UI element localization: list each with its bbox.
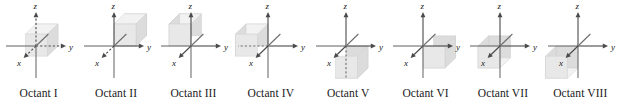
octant-caption-6: Octant VI bbox=[402, 86, 448, 100]
octant-panel-4: yzxOctant IV bbox=[232, 0, 309, 110]
axis-label-x: x bbox=[481, 58, 486, 68]
octant-diagram-6: yzx bbox=[387, 0, 464, 86]
axis-label-x: x bbox=[16, 58, 21, 68]
axis-label-z: z bbox=[33, 1, 38, 11]
axis-label-y: y bbox=[223, 42, 228, 52]
axis-label-z: z bbox=[574, 1, 579, 11]
axis-label-y: y bbox=[68, 42, 73, 52]
axis-label-z: z bbox=[420, 1, 425, 11]
octant-caption-3: Octant III bbox=[170, 86, 216, 100]
axis-label-y: y bbox=[532, 42, 537, 52]
octant-panel-7: yzxOctant VII bbox=[464, 0, 541, 110]
axis-label-x: x bbox=[558, 58, 563, 68]
octant-panel-8: yzxOctant VIII bbox=[542, 0, 619, 110]
octant-panel-1: yzxOctant I bbox=[0, 0, 77, 110]
octant-diagram-3: yzx bbox=[155, 0, 232, 86]
axis-label-y: y bbox=[455, 42, 460, 52]
octant-panel-3: yzxOctant III bbox=[155, 0, 232, 110]
octant-caption-1: Octant I bbox=[20, 86, 58, 100]
octant-diagram-2: yzx bbox=[78, 0, 155, 86]
axis-label-x: x bbox=[403, 58, 408, 68]
octants-figure: yzxOctant IyzxOctant IIyzxOctant IIIyzxO… bbox=[0, 0, 619, 110]
axis-label-x: x bbox=[94, 58, 99, 68]
axis-label-z: z bbox=[110, 1, 115, 11]
octant-panel-5: yzxOctant V bbox=[310, 0, 387, 110]
axis-label-y: y bbox=[300, 42, 305, 52]
axis-label-y: y bbox=[146, 42, 151, 52]
axis-label-z: z bbox=[187, 1, 192, 11]
axis-label-y: y bbox=[378, 42, 383, 52]
octant-caption-5: Octant V bbox=[327, 86, 369, 100]
axis-label-y: y bbox=[610, 42, 615, 52]
axis-label-x: x bbox=[326, 58, 331, 68]
octant-diagram-5: yzx bbox=[310, 0, 387, 86]
axis-label-z: z bbox=[342, 1, 347, 11]
octant-caption-8: Octant VIII bbox=[553, 86, 607, 100]
octant-panel-6: yzxOctant VI bbox=[387, 0, 464, 110]
octant-caption-2: Octant II bbox=[95, 86, 137, 100]
octant-diagram-7: yzx bbox=[464, 0, 541, 86]
axis-label-z: z bbox=[265, 1, 270, 11]
octant-caption-7: Octant VII bbox=[478, 86, 528, 100]
octant-panel-2: yzxOctant II bbox=[77, 0, 154, 110]
octant-diagram-8: yzx bbox=[542, 0, 619, 86]
axis-label-x: x bbox=[248, 58, 253, 68]
octant-diagram-1: yzx bbox=[0, 0, 77, 86]
octant-diagram-4: yzx bbox=[232, 0, 309, 86]
axis-label-z: z bbox=[497, 1, 502, 11]
octant-caption-4: Octant IV bbox=[248, 86, 295, 100]
axis-label-x: x bbox=[171, 58, 176, 68]
